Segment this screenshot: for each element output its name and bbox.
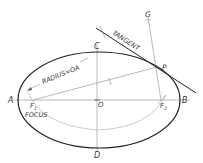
label-C: C xyxy=(94,42,100,51)
label-B: B xyxy=(182,96,188,105)
label-O: O xyxy=(98,101,104,109)
focal-line-f1-p xyxy=(33,67,157,100)
diagram-canvas: A B C D O P G F1 F2 TANGENT RADIUS=OA FO… xyxy=(0,0,203,163)
radius-leader-upper xyxy=(80,58,88,62)
focal-line-f2-g xyxy=(148,17,161,100)
radius-arrowhead xyxy=(27,87,32,91)
label-D: D xyxy=(94,151,100,160)
ellipse-diagram: A B C D O P G F1 F2 TANGENT RADIUS=OA FO… xyxy=(0,0,203,163)
label-P: P xyxy=(162,63,167,72)
label-G: G xyxy=(145,10,151,19)
radius-text: RADIUS=OA xyxy=(41,64,81,86)
label-F1: F1 xyxy=(30,102,37,111)
label-F2: F2 xyxy=(160,102,167,111)
tangent-line xyxy=(96,28,196,93)
label-A: A xyxy=(7,96,13,105)
focus-text: FOCUS xyxy=(25,111,47,119)
tangent-end-tick xyxy=(100,26,105,38)
